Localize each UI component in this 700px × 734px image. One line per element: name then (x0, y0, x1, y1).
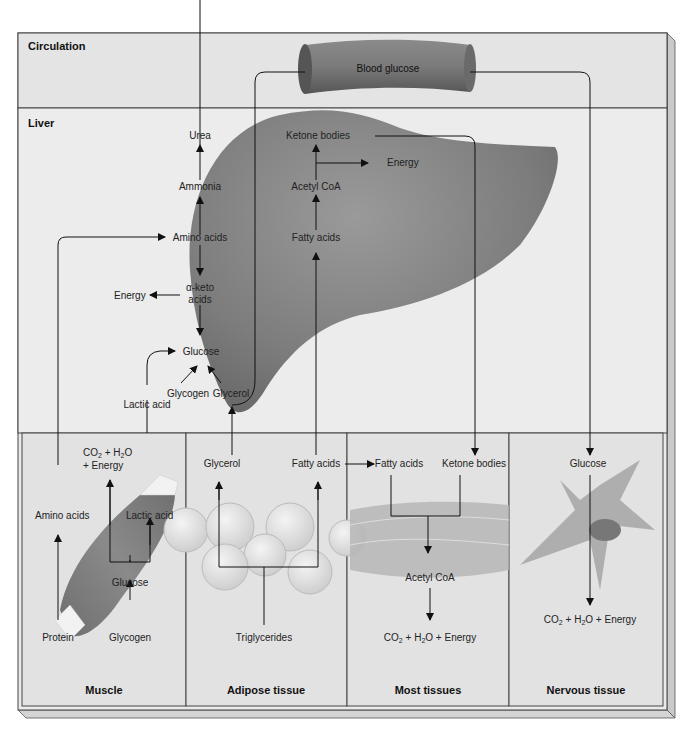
liver-acetyl-coa-label: Acetyl CoA (291, 181, 340, 193)
protein-label: Protein (42, 632, 74, 644)
nervous-output-label: CO2 + H2O + Energy (544, 614, 636, 629)
tissue-fibers-illustration (350, 502, 509, 578)
region-title-nervous: Nervous tissue (547, 684, 626, 696)
adipose-glycerol-label: Glycerol (204, 458, 241, 470)
ammonia-label: Ammonia (179, 181, 221, 193)
energy-left-label: Energy (114, 290, 146, 302)
region-title-muscle: Muscle (85, 684, 122, 696)
most-tissues-ketone-bodies-label: Ketone bodies (442, 458, 506, 470)
region-title-liver: Liver (28, 117, 54, 129)
triglycerides-label: Triglycerides (236, 632, 292, 644)
energy-right-label: Energy (387, 157, 419, 169)
muscle-energy-label: + Energy (83, 460, 123, 472)
amino-acids-label: Amino acids (173, 232, 227, 244)
muscle-glucose-label: Glucose (112, 577, 149, 589)
muscle-amino-acids-label: Amino acids (35, 510, 89, 522)
most-tissues-fatty-acids-label: Fatty acids (375, 458, 423, 470)
liver-fatty-acids-label: Fatty acids (292, 232, 340, 244)
region-title-adipose: Adipose tissue (227, 684, 305, 696)
alpha-keto-label-2: acids (188, 294, 211, 306)
ketone-bodies-label: Ketone bodies (286, 130, 350, 142)
most-tissues-output-label: CO2 + H2O + Energy (384, 632, 476, 647)
adipose-fatty-acids-label: Fatty acids (292, 458, 340, 470)
liver-glycogen-label: Glycogen (167, 388, 209, 400)
urea-label: Urea (189, 130, 211, 142)
region-title-circulation: Circulation (28, 40, 85, 52)
nervous-glucose-label: Glucose (570, 458, 607, 470)
liver-glycerol-label: Glycerol (213, 388, 250, 400)
most-tissues-acetyl-coa-label: Acetyl CoA (405, 572, 454, 584)
muscle-lactic-acid-label: Lactic acid (126, 510, 173, 522)
blood-glucose-label: Blood glucose (357, 63, 420, 75)
muscle-glycogen-label: Glycogen (109, 632, 151, 644)
alpha-keto-label-1: α-keto (186, 282, 214, 294)
liver-glucose-label: Glucose (183, 346, 220, 358)
region-title-most-tissues: Most tissues (395, 684, 462, 696)
liver-lactic-acid-label: Lactic acid (123, 399, 170, 411)
